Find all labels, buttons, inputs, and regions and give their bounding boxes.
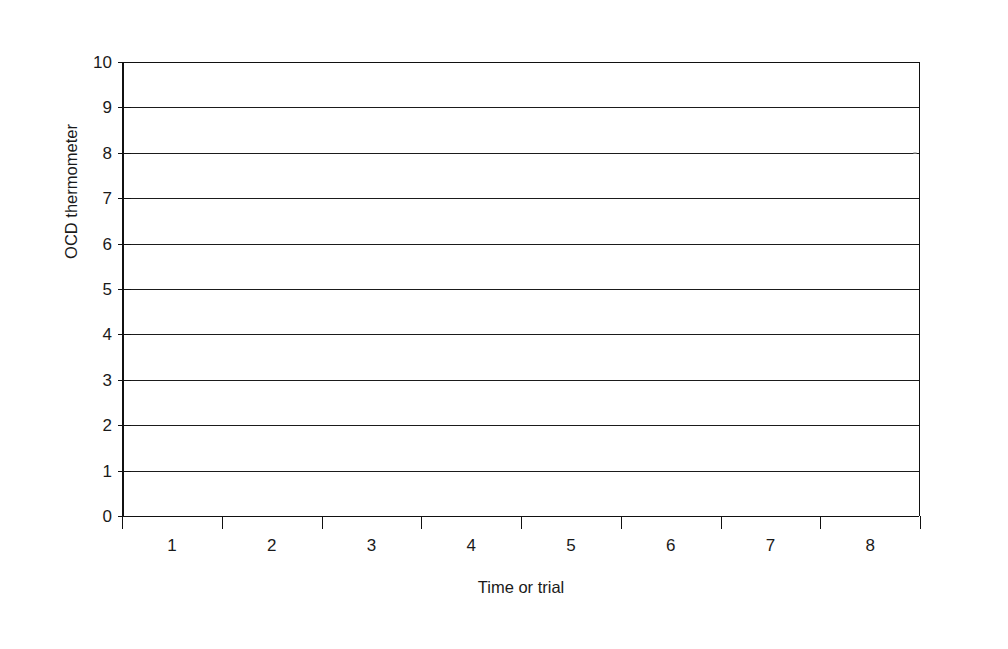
y-axis-tick: [118, 62, 131, 63]
y-axis-tick: [118, 198, 131, 199]
y-axis-tick-label: 10: [93, 54, 112, 71]
y-axis-tick-label: 5: [103, 281, 112, 298]
x-axis-tick: [920, 516, 921, 529]
x-axis-tick: [222, 516, 223, 529]
gridline: [124, 334, 919, 335]
x-axis-tick-label: 6: [666, 537, 675, 554]
gridline: [124, 153, 919, 154]
y-axis-tick: [118, 334, 131, 335]
gridline: [124, 107, 919, 108]
gridline: [124, 198, 919, 199]
y-axis-tick-label: 0: [103, 508, 112, 525]
y-axis-tick: [118, 244, 131, 245]
gridline: [124, 289, 919, 290]
x-axis-tick-label: 1: [167, 537, 176, 554]
gridline: [124, 471, 919, 472]
x-axis-tick-label: 7: [766, 537, 775, 554]
y-axis-tick-label: 8: [103, 144, 112, 161]
x-axis-tick: [521, 516, 522, 529]
y-axis-tick-label: 9: [103, 99, 112, 116]
plot-area: [122, 62, 920, 516]
gridline: [124, 244, 919, 245]
y-axis-tick: [118, 107, 131, 108]
x-axis-tick: [820, 516, 821, 529]
x-axis-tick-label: 8: [865, 537, 874, 554]
y-axis-tick-label: 2: [103, 417, 112, 434]
gridline: [124, 62, 919, 63]
y-axis-tick-label: 1: [103, 462, 112, 479]
y-axis-tick-label: 7: [103, 190, 112, 207]
y-axis-tick: [118, 289, 131, 290]
y-axis-tick-label: 6: [103, 235, 112, 252]
y-axis-tick-label: 4: [103, 326, 112, 343]
y-axis-title: OCD thermometer: [62, 82, 81, 302]
gridline: [124, 425, 919, 426]
y-axis-tick: [118, 471, 131, 472]
gridline: [124, 380, 919, 381]
x-axis-tick-labels: 12345678: [122, 537, 920, 563]
x-axis-tick: [721, 516, 722, 529]
x-axis-tick: [322, 516, 323, 529]
x-axis-tick-label: 2: [267, 537, 276, 554]
chart-container: 109876543210 OCD thermometer 12345678 Ti…: [0, 0, 1008, 649]
y-axis-tick: [118, 153, 131, 154]
x-axis-tick-label: 5: [566, 537, 575, 554]
y-axis-tick-label: 3: [103, 371, 112, 388]
x-axis-tick-label: 4: [466, 537, 475, 554]
x-axis-tick: [621, 516, 622, 529]
x-axis-tick-marks: [122, 516, 920, 530]
y-axis-tick: [118, 380, 131, 381]
x-axis-tick-label: 3: [367, 537, 376, 554]
scan-artifact-speck: [913, 152, 917, 154]
y-axis-tick: [118, 425, 131, 426]
x-axis-title: Time or trial: [122, 578, 920, 597]
x-axis-tick: [421, 516, 422, 529]
x-axis-tick: [122, 516, 123, 529]
